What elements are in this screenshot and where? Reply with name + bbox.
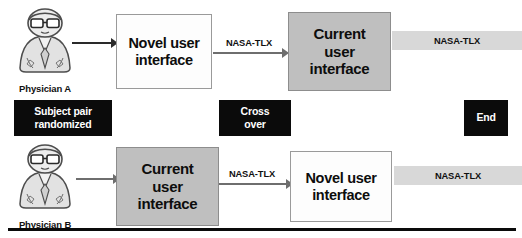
arrow-physician-b-to-step1 — [76, 174, 120, 184]
physician-avatar-icon — [14, 8, 76, 74]
arm-b-step1-line2: user — [152, 178, 183, 195]
arrow-physician-a-to-step1 — [72, 38, 118, 48]
physician-b-figure: Physician B — [14, 144, 76, 230]
arm-b-step2-line2: interface — [312, 187, 370, 203]
arm-b-step1-line3: interface — [138, 195, 198, 212]
physician-a-figure: Physician A — [14, 8, 76, 94]
end-box: End — [464, 100, 508, 136]
crossover-line2: over — [244, 118, 265, 130]
arrow-arm-b-step1-to-step2 — [219, 179, 293, 189]
arm-a-step2-line1: Current — [313, 25, 365, 42]
end-label: End — [476, 111, 495, 124]
arm-a-step1-line1: Novel user — [128, 35, 199, 51]
arm-a-measure2-label: NASA-TLX — [392, 31, 522, 50]
randomization-box: Subject pair randomized — [14, 100, 112, 136]
arm-a-step1-line2: interface — [135, 52, 193, 68]
arm-a-step2-box[interactable]: Current user interface — [288, 12, 391, 91]
physician-a-label: Physician A — [6, 83, 84, 94]
arm-a-step2-line3: interface — [310, 60, 370, 77]
randomization-line1: Subject pair — [34, 105, 92, 117]
arm-b-step2-line1: Novel user — [305, 170, 376, 186]
randomization-line2: randomized — [35, 118, 92, 130]
crossover-box: Cross over — [219, 100, 291, 136]
arm-a-step2-line2: user — [324, 43, 355, 60]
arm-b-step1-box[interactable]: Current user interface — [116, 147, 219, 226]
crossover-line1: Cross — [241, 105, 270, 117]
arm-b-step1-line1: Current — [141, 160, 193, 177]
arrow-arm-a-step1-to-step2 — [213, 48, 289, 58]
arm-b-step2-box[interactable]: Novel user interface — [290, 151, 392, 222]
crossover-study-diagram: Physician A Novel user interface NASA-TL… — [0, 0, 522, 238]
physician-avatar-icon — [14, 144, 76, 210]
arm-b-measure2-label: NASA-TLX — [394, 166, 522, 185]
arm-a-step1-box[interactable]: Novel user interface — [116, 14, 212, 89]
bottom-divider — [8, 228, 516, 231]
